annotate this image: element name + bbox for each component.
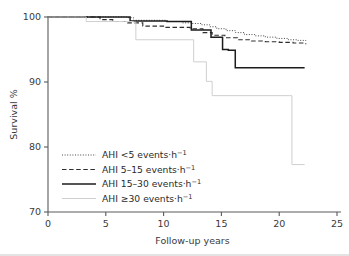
series-line-4: [48, 17, 305, 165]
y-axis-title: Survival %: [8, 89, 19, 139]
x-tick-label: 25: [331, 218, 343, 229]
x-axis-title: Follow-up years: [155, 235, 229, 246]
kaplan-meier-plot: 7080901000510152025Survival %Follow-up y…: [0, 0, 349, 256]
legend-superscript-2: −1: [186, 164, 196, 172]
legend-label-4: AHI ≥30 events·h−1: [102, 193, 193, 204]
legend-label-2: AHI 5–15 events·h−1: [102, 164, 195, 175]
x-tick-label: 5: [103, 218, 109, 229]
legend-superscript-4: −1: [183, 193, 193, 201]
y-tick-label: 80: [29, 141, 41, 152]
legend: AHI <5 events·h−1AHI 5–15 events·h−1AHI …: [62, 149, 201, 204]
legend-superscript-1: −1: [177, 149, 187, 157]
x-tick-label: 10: [158, 218, 170, 229]
y-tick-label: 90: [29, 76, 41, 87]
x-tick-label: 0: [45, 218, 51, 229]
legend-item-2[interactable]: AHI 5–15 events·h−1: [62, 164, 195, 175]
legend-item-1[interactable]: AHI <5 events·h−1: [62, 149, 187, 160]
legend-label-1: AHI <5 events·h−1: [102, 149, 187, 160]
series-line-1: [48, 17, 306, 41]
y-tick-label: 100: [23, 11, 41, 22]
legend-superscript-3: −1: [191, 178, 201, 186]
survival-curve-figure: 7080901000510152025Survival %Follow-up y…: [0, 0, 349, 254]
x-tick-label: 20: [273, 218, 285, 229]
legend-item-4[interactable]: AHI ≥30 events·h−1: [62, 193, 193, 204]
series-line-3: [48, 17, 305, 68]
legend-item-3[interactable]: AHI 15–30 events·h−1: [62, 178, 201, 189]
legend-label-3: AHI 15–30 events·h−1: [102, 178, 201, 189]
y-tick-label: 70: [29, 206, 41, 217]
x-tick-label: 15: [215, 218, 227, 229]
